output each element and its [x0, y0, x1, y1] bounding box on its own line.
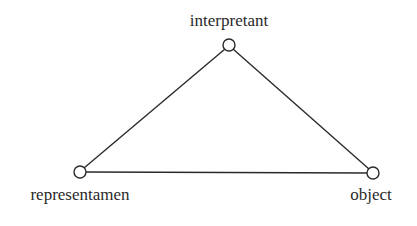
label-representamen: representamen: [30, 186, 129, 203]
label-object: object: [350, 186, 392, 203]
edge-representamen-interpretant: [84, 49, 225, 168]
edge-interpretant-object: [233, 49, 369, 169]
label-interpretant: interpretant: [190, 12, 268, 29]
node-representamen: [74, 166, 86, 178]
node-object: [367, 167, 379, 179]
edge-representamen-object: [86, 172, 367, 173]
node-interpretant: [223, 39, 235, 51]
